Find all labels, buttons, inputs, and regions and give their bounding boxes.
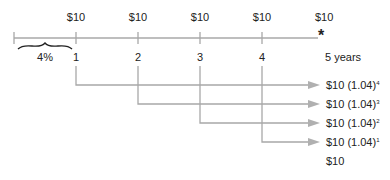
payment-label: $10 bbox=[253, 11, 271, 23]
compounded-value: $10 (1.04)3 bbox=[326, 98, 380, 110]
flow-line-1 bbox=[76, 66, 310, 85]
arrow-icon bbox=[308, 119, 320, 127]
arrow-icon bbox=[308, 138, 320, 146]
arrow-icon bbox=[308, 100, 320, 108]
payment-label: $10 bbox=[315, 11, 333, 23]
end-period-label: 5 years bbox=[325, 51, 361, 63]
compounded-value: $10 (1.04)2 bbox=[326, 117, 380, 129]
arrow-icon bbox=[308, 81, 320, 89]
period-label: 3 bbox=[197, 51, 203, 63]
final-value: $10 bbox=[326, 155, 344, 167]
payment-label: $10 bbox=[129, 11, 147, 23]
period-label: 4 bbox=[259, 51, 265, 63]
end-marker-icon: * bbox=[318, 30, 324, 42]
brace-icon bbox=[18, 43, 72, 49]
compounded-value: $10 (1.04)4 bbox=[326, 79, 380, 91]
payment-label: $10 bbox=[67, 11, 85, 23]
compounded-value: $10 (1.04)1 bbox=[326, 136, 380, 148]
flow-line-3 bbox=[200, 66, 310, 123]
arrowheads bbox=[308, 81, 320, 146]
period-label: 1 bbox=[73, 51, 79, 63]
period-label: 2 bbox=[135, 51, 141, 63]
payment-label: $10 bbox=[191, 11, 209, 23]
rate-label: 4% bbox=[37, 51, 53, 63]
